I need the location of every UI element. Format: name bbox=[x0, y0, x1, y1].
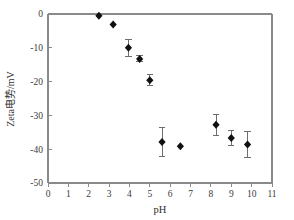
x-tick-label: 1 bbox=[66, 189, 71, 199]
y-tick-label: -20 bbox=[30, 77, 43, 87]
data-point-marker bbox=[228, 134, 235, 142]
x-axis-title: pH bbox=[154, 204, 167, 215]
y-tick-label: -50 bbox=[30, 178, 43, 188]
x-tick-label: 2 bbox=[86, 189, 91, 199]
x-tick-label: 9 bbox=[229, 189, 234, 199]
x-tick-label: 3 bbox=[107, 189, 112, 199]
data-point-marker bbox=[125, 44, 132, 52]
y-tick-label: -30 bbox=[30, 111, 43, 121]
data-point-marker bbox=[158, 138, 165, 146]
x-tick-label: 8 bbox=[209, 189, 214, 199]
chart-ticks bbox=[48, 14, 272, 187]
x-tick-label: 10 bbox=[247, 189, 257, 199]
y-axis-title: Zeta电势/mV bbox=[4, 70, 16, 126]
chart-data-markers bbox=[95, 12, 251, 150]
x-tick-label: 7 bbox=[188, 189, 193, 199]
x-tick-label: 11 bbox=[267, 189, 276, 199]
data-point-marker bbox=[177, 142, 184, 150]
data-point-marker bbox=[244, 140, 251, 148]
x-tick-label: 6 bbox=[168, 189, 173, 199]
x-tick-label: 0 bbox=[46, 189, 51, 199]
data-point-marker bbox=[146, 76, 153, 84]
zeta-potential-chart: 012345678910110-10-20-30-40-50 pH Zeta电势… bbox=[0, 0, 294, 220]
x-tick-label: 5 bbox=[147, 189, 152, 199]
chart-axes bbox=[48, 14, 272, 183]
chart-tick-labels: 012345678910110-10-20-30-40-50 bbox=[30, 9, 276, 199]
y-tick-label: -40 bbox=[30, 145, 43, 155]
y-tick-label: -10 bbox=[30, 43, 43, 53]
data-point-marker bbox=[110, 20, 117, 28]
data-point-marker bbox=[95, 12, 102, 20]
x-tick-label: 4 bbox=[127, 189, 132, 199]
data-point-marker bbox=[212, 121, 219, 129]
chart-canvas: 012345678910110-10-20-30-40-50 pH Zeta电势… bbox=[0, 0, 294, 220]
y-tick-label: 0 bbox=[38, 9, 43, 19]
